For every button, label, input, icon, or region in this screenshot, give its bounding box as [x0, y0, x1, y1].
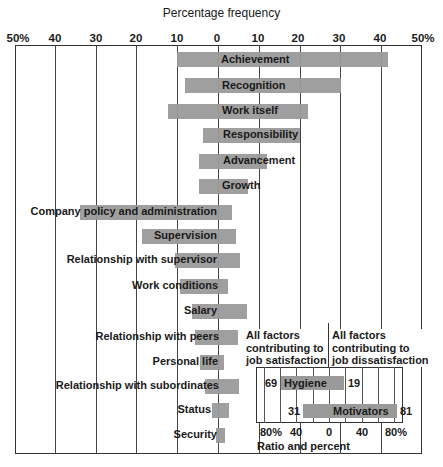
row-label: Work conditions	[132, 278, 218, 293]
inset-xlabel: Ratio and percent	[257, 440, 350, 452]
motivators-label: Motivators	[333, 404, 389, 418]
x-tick: 50%	[411, 32, 434, 44]
inset-tick: 80%	[385, 426, 407, 438]
motivators-right-value: 81	[400, 404, 412, 418]
x-tick: 0	[214, 32, 220, 44]
note-line: job dissatisfaction	[332, 354, 429, 367]
row-label: Supervision	[154, 228, 217, 243]
hygiene-label: Hygiene	[284, 376, 327, 390]
inset-tick: 40	[290, 426, 302, 438]
x-tick: 40	[49, 32, 62, 44]
note-line: job satisfaction	[246, 354, 327, 367]
x-tick: 20	[130, 32, 143, 44]
bar-status	[212, 403, 229, 418]
x-tick: 40	[374, 32, 387, 44]
inset-divider	[328, 323, 329, 367]
note-line: All factors	[246, 329, 327, 342]
row-label: Achievement	[221, 52, 289, 67]
note-line: All factors	[332, 329, 429, 342]
chart-title: Percentage frequency	[0, 6, 443, 20]
bar-security	[216, 428, 225, 443]
inset-tick: 0	[326, 426, 332, 438]
row-label: Growth	[222, 178, 261, 193]
row-label: Company policy and administration	[31, 204, 217, 219]
x-tick: 50%	[6, 32, 29, 44]
row-label: Work itself	[222, 103, 278, 118]
note-line: contributing to	[332, 342, 429, 355]
row-label: Recognition	[222, 78, 286, 93]
row-label: Status	[177, 402, 211, 417]
row-label: Security	[174, 427, 217, 442]
row-label: Advancement	[223, 153, 295, 168]
hygiene-right-value: 19	[348, 376, 360, 390]
x-tick: 10	[252, 32, 265, 44]
x-tick: 30	[333, 32, 346, 44]
row-label: Salary	[184, 303, 217, 318]
x-tick: 30	[90, 32, 103, 44]
row-label: Relationship with peers	[96, 329, 219, 344]
row-label: Relationship with subordinates	[56, 378, 219, 393]
inset-tick: 80%	[260, 426, 282, 438]
row-label: Relationship with supervisor	[67, 252, 217, 267]
inset-note-dissatisfaction: All factors contributing to job dissatis…	[332, 329, 429, 367]
row-label: Responsibility	[223, 127, 298, 142]
motivators-left-value: 31	[288, 404, 300, 418]
x-tick: 20	[292, 32, 305, 44]
inset-tick: 40	[356, 426, 368, 438]
x-tick: 10	[171, 32, 184, 44]
hygiene-left-value: 69	[265, 376, 277, 390]
inset-note-satisfaction: All factors contributing to job satisfac…	[246, 329, 329, 367]
note-line: contributing to	[246, 342, 327, 355]
row-label: Personal life	[153, 354, 218, 369]
herzberg-chart: Percentage frequency 50% 40 30 20 10 0 1…	[0, 0, 443, 467]
